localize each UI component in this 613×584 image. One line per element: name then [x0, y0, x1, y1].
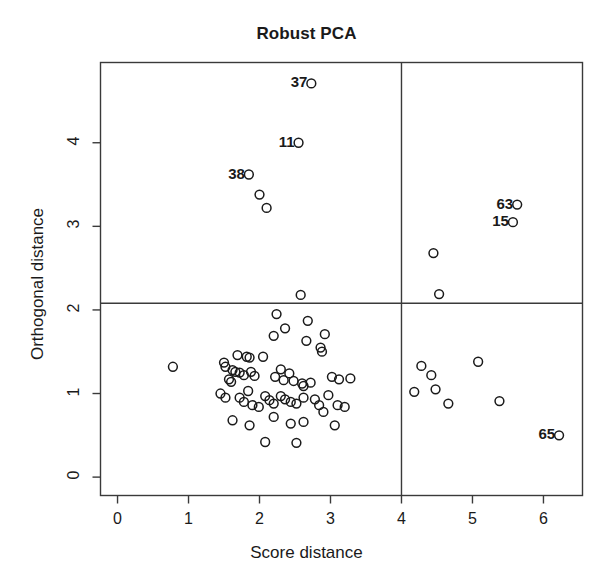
x-axis-label: Score distance: [0, 543, 613, 563]
scatter-point: [346, 374, 355, 383]
scatter-point: [435, 290, 444, 299]
scatter-point: [324, 391, 333, 400]
scatter-point: [431, 385, 440, 394]
outlier-label: 38: [185, 165, 245, 182]
scatter-point: [244, 170, 253, 179]
outlier-label: 11: [235, 133, 295, 150]
scatter-point: [299, 393, 308, 402]
x-tick-label: 1: [169, 510, 209, 528]
scatter-point: [233, 351, 242, 360]
scatter-point: [245, 421, 254, 430]
scatter-point: [302, 336, 311, 345]
scatter-point: [294, 138, 303, 147]
data-points: [169, 79, 564, 447]
scatter-point: [299, 418, 308, 427]
y-tick-label: 1: [65, 377, 83, 407]
y-tick-label: 4: [65, 126, 83, 156]
scatter-point: [296, 290, 305, 299]
scatter-point: [513, 200, 522, 209]
x-tick-label: 5: [452, 510, 492, 528]
scatter-point: [319, 408, 328, 417]
scatter-point: [292, 438, 301, 447]
x-tick-label: 2: [240, 510, 280, 528]
scatter-point: [261, 438, 270, 447]
scatter-point: [306, 378, 315, 387]
x-tick-label: 4: [381, 510, 421, 528]
scatter-point: [244, 387, 253, 396]
outlier-label: 65: [495, 425, 555, 442]
scatter-point: [307, 79, 316, 88]
scatter-point: [169, 362, 178, 371]
x-tick-label: 0: [98, 510, 138, 528]
scatter-point: [255, 190, 264, 199]
scatter-point: [417, 362, 426, 371]
outlier-label: 37: [247, 73, 307, 90]
scatter-point: [262, 204, 271, 213]
scatter-point: [427, 371, 436, 380]
y-tick-label: 3: [65, 209, 83, 239]
scatter-point: [330, 421, 339, 430]
y-tick-label: 0: [65, 460, 83, 490]
x-tick-label: 6: [523, 510, 563, 528]
y-axis-label: Orthogonal distance: [28, 74, 48, 494]
scatter-point: [259, 352, 268, 361]
scatter-point: [272, 310, 281, 319]
scatter-point: [495, 397, 504, 406]
scatter-point: [269, 413, 278, 422]
y-tick-label: 2: [65, 293, 83, 323]
scatter-point: [320, 330, 329, 339]
scatter-point: [269, 331, 278, 340]
scatter-point: [286, 397, 295, 406]
scatter-point: [227, 377, 236, 386]
scatter-point: [444, 399, 453, 408]
scatter-point: [474, 357, 483, 366]
scatter-point: [228, 416, 237, 425]
scatter-point: [286, 419, 295, 428]
scatter-point: [281, 324, 290, 333]
scatter-point: [276, 365, 285, 374]
outlier-label: 63: [453, 195, 513, 212]
scatter-point: [410, 387, 419, 396]
outlier-label: 15: [449, 212, 509, 229]
x-tick-label: 3: [310, 510, 350, 528]
scatter-point: [555, 431, 564, 440]
scatter-point: [303, 316, 312, 325]
robust-pca-scatter-figure: Robust PCA Score distance Orthogonal dis…: [0, 0, 613, 584]
scatter-point: [225, 375, 234, 384]
scatter-point: [289, 377, 298, 386]
scatter-point: [509, 218, 518, 227]
scatter-point: [429, 249, 438, 258]
